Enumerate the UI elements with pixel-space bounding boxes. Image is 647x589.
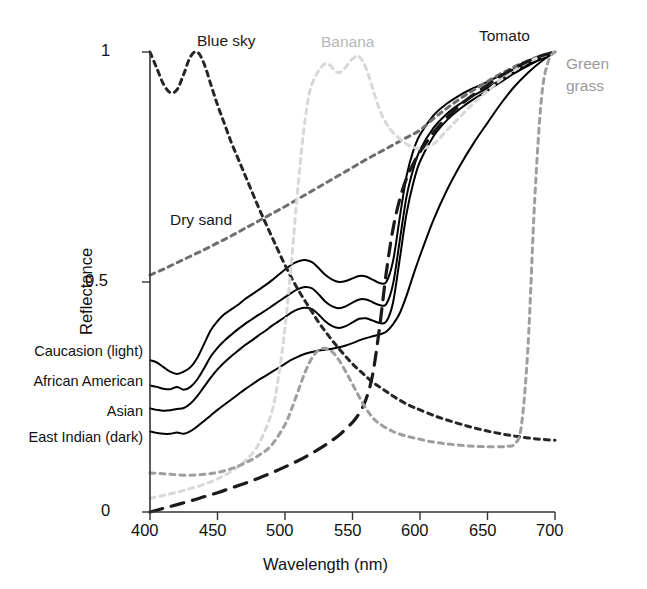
axis-layer [142,52,555,520]
chart-canvas [0,0,647,589]
y-axis-title: Reflectance [78,248,95,335]
series-label-asian: Asian [0,404,143,419]
annotation-tomato: Tomato [479,28,530,44]
annotation-green-grass-line1: Green [566,56,609,72]
x-axis-title: Wavelength (nm) [263,556,388,573]
series-label-caucasion: Caucasion (light) [0,344,143,359]
annotation-blue-sky: Blue sky [197,33,256,49]
x-tick-label-700: 700 [536,522,564,539]
curve-blue-sky [150,52,555,441]
x-tick-label-550: 550 [334,522,362,539]
curve-banana [150,52,555,498]
series-label-african-american: African American [0,374,143,389]
x-tick-label-650: 650 [469,522,497,539]
annotation-green-grass-line2: grass [566,78,604,94]
annotation-dry-sand: Dry sand [170,212,232,228]
y-tick-label-1: 1 [101,42,110,59]
curve-green-grass [150,52,555,475]
y-tick-label-0: 0 [101,502,110,519]
reflectance-spectra-figure: 1 0.5 0 400 450 500 550 600 650 700 Wave… [0,0,647,589]
curve-tomato [150,52,555,512]
x-tick-label-500: 500 [266,522,294,539]
x-tick-label-600: 600 [401,522,429,539]
curve-layer [150,52,555,512]
x-tick-label-450: 450 [199,522,227,539]
series-label-east-indian: East Indian (dark) [0,430,143,445]
annotation-banana: Banana [321,34,374,50]
x-tick-label-400: 400 [131,522,159,539]
